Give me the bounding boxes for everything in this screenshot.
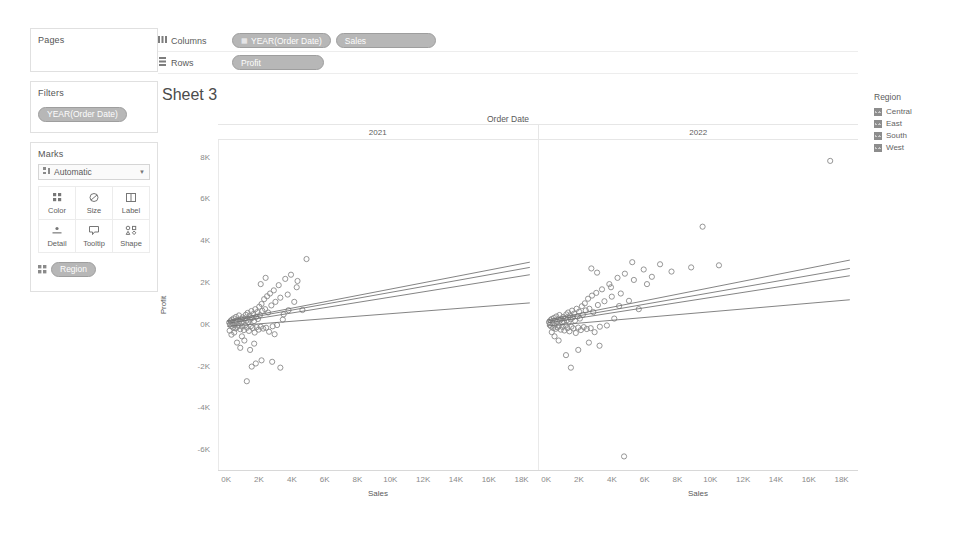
filters-card: Filters YEAR(Order Date) bbox=[30, 81, 158, 133]
panel-header-2021: 2021 bbox=[218, 125, 538, 139]
chevron-down-icon: ▼ bbox=[139, 169, 145, 175]
y-axis: Profit 8K6K4K2K0K-2K-4K-6K bbox=[158, 140, 218, 470]
automatic-icon bbox=[43, 167, 51, 177]
date-part-icon: ▦ bbox=[241, 37, 248, 45]
x-tick-label: 14K bbox=[449, 475, 463, 484]
x-tick-label: 10K bbox=[703, 475, 717, 484]
legend-swatch-icon bbox=[874, 144, 882, 152]
x-axis-title: Sales bbox=[368, 489, 388, 498]
y-tick-label: 4K bbox=[200, 236, 210, 245]
marks-label-label: Label bbox=[122, 206, 140, 215]
worksheet-viz: Sheet 3 Order Date 20212022 Profit 8K6K4… bbox=[158, 86, 858, 526]
columns-shelf-label-wrap: Columns bbox=[158, 35, 226, 46]
legend-item-west[interactable]: West bbox=[874, 143, 958, 152]
x-axis-row: 0K2K4K6K8K10K12K14K16K18KSales0K2K4K6K8K… bbox=[218, 470, 858, 504]
rows-pill-profit[interactable]: Profit bbox=[232, 55, 324, 70]
legend-title: Region bbox=[874, 92, 958, 102]
x-tick-label: 18K bbox=[834, 475, 848, 484]
x-tick-label: 6K bbox=[320, 475, 330, 484]
columns-shelf[interactable]: Columns ▦ YEAR(Order Date) Sales bbox=[158, 30, 858, 52]
legend-item-label: West bbox=[886, 143, 904, 152]
columns-icon bbox=[158, 35, 167, 46]
legend-swatch-icon bbox=[874, 120, 882, 128]
scatter-panel-2022[interactable] bbox=[538, 140, 858, 470]
y-tick-label: -2K bbox=[198, 361, 210, 370]
viz-side-panel: Pages Filters YEAR(Order Date) Marks Aut… bbox=[30, 28, 158, 298]
x-tick-label: 2K bbox=[254, 475, 264, 484]
plot-area: Profit 8K6K4K2K0K-2K-4K-6K bbox=[158, 140, 858, 470]
legend-item-east[interactable]: East bbox=[874, 119, 958, 128]
marks-size-button[interactable]: Size bbox=[76, 187, 113, 220]
color-icon bbox=[52, 191, 63, 204]
size-icon bbox=[88, 191, 100, 204]
detail-icon bbox=[51, 224, 63, 237]
marks-label-button[interactable]: Label bbox=[113, 187, 150, 220]
mark-type-dropdown[interactable]: Automatic ▼ bbox=[38, 164, 150, 180]
x-tick-label: 0K bbox=[221, 475, 231, 484]
columns-shelf-label: Columns bbox=[171, 36, 207, 46]
columns-pill-year-order-date[interactable]: ▦ YEAR(Order Date) bbox=[232, 33, 331, 48]
rows-shelf-label-wrap: Rows bbox=[158, 57, 226, 68]
legend-item-central[interactable]: Central bbox=[874, 107, 958, 116]
x-tick-label: 4K bbox=[287, 475, 297, 484]
marks-detail-button[interactable]: Detail bbox=[39, 220, 76, 253]
marks-tooltip-button[interactable]: Tooltip bbox=[76, 220, 113, 253]
pages-card: Pages bbox=[30, 28, 158, 72]
marks-color-label: Color bbox=[48, 206, 66, 215]
filter-pill-year-order-date[interactable]: YEAR(Order Date) bbox=[38, 107, 127, 122]
column-field-title: Order Date bbox=[158, 114, 858, 124]
x-tick-label: 0K bbox=[541, 475, 551, 484]
legend-item-south[interactable]: South bbox=[874, 131, 958, 140]
y-axis-title: Profit bbox=[159, 296, 168, 315]
rows-shelf-label: Rows bbox=[171, 58, 194, 68]
x-tick-label: 18K bbox=[514, 475, 528, 484]
marks-button-grid: Color Size Label Detail bbox=[38, 186, 150, 253]
sheet-title: Sheet 3 bbox=[158, 86, 858, 104]
x-axis-2021: 0K2K4K6K8K10K12K14K16K18KSales bbox=[218, 470, 538, 504]
legend-swatch-icon bbox=[874, 132, 882, 140]
columns-pill-0-label: YEAR(Order Date) bbox=[251, 36, 322, 46]
marks-detail-label: Detail bbox=[47, 239, 66, 248]
x-tick-label: 6K bbox=[640, 475, 650, 484]
rows-shelf-pills: Profit bbox=[232, 55, 324, 70]
y-tick-label: -4K bbox=[198, 403, 210, 412]
x-tick-label: 14K bbox=[769, 475, 783, 484]
label-icon bbox=[125, 191, 137, 204]
rows-pill-0-label: Profit bbox=[241, 58, 261, 68]
columns-shelf-pills: ▦ YEAR(Order Date) Sales bbox=[232, 33, 436, 48]
x-tick-label: 16K bbox=[802, 475, 816, 484]
scatter-panel-2021[interactable] bbox=[218, 140, 538, 470]
marks-shape-label: Shape bbox=[120, 239, 142, 248]
filters-card-title: Filters bbox=[38, 88, 150, 98]
mark-type-label: Automatic bbox=[54, 167, 92, 177]
marks-pill-region[interactable]: Region bbox=[51, 262, 96, 277]
marks-card: Marks Automatic ▼ Color Size bbox=[30, 142, 158, 292]
x-tick-label: 12K bbox=[736, 475, 750, 484]
pages-card-title: Pages bbox=[38, 35, 150, 45]
y-tick-label: 0K bbox=[200, 319, 210, 328]
legend-items: CentralEastSouthWest bbox=[874, 107, 958, 152]
color-legend: Region CentralEastSouthWest bbox=[874, 92, 958, 155]
marks-card-title: Marks bbox=[38, 149, 150, 159]
facet-panels bbox=[218, 140, 858, 470]
marks-color-button[interactable]: Color bbox=[39, 187, 76, 220]
x-tick-label: 10K bbox=[383, 475, 397, 484]
columns-pill-1-label: Sales bbox=[345, 36, 366, 46]
rows-shelf[interactable]: Rows Profit bbox=[158, 52, 858, 74]
x-tick-label: 12K bbox=[416, 475, 430, 484]
marks-shape-button[interactable]: Shape bbox=[113, 220, 150, 253]
shelf-area: Columns ▦ YEAR(Order Date) Sales Rows Pr… bbox=[158, 30, 858, 74]
color-shelf-icon bbox=[38, 260, 47, 278]
shape-icon bbox=[125, 224, 138, 237]
x-tick-label: 16K bbox=[482, 475, 496, 484]
panel-header-2022: 2022 bbox=[538, 125, 859, 139]
x-tick-label: 8K bbox=[353, 475, 363, 484]
legend-swatch-icon bbox=[874, 108, 882, 116]
legend-item-label: Central bbox=[886, 107, 912, 116]
columns-pill-sales[interactable]: Sales bbox=[336, 33, 436, 48]
y-tick-label: 2K bbox=[200, 278, 210, 287]
x-axis-2022: 0K2K4K6K8K10K12K14K16K18KSales bbox=[538, 470, 858, 504]
x-tick-label: 2K bbox=[574, 475, 584, 484]
marks-size-label: Size bbox=[87, 206, 102, 215]
x-axis-title: Sales bbox=[688, 489, 708, 498]
